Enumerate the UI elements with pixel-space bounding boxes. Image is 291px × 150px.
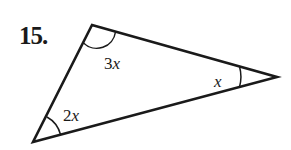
angle-arc-right (240, 67, 241, 88)
angle-label-top: 3x (104, 54, 121, 73)
angle-label-bottom-left: 2x (63, 106, 80, 125)
triangle-diagram: 3x x 2x (0, 0, 291, 150)
angle-label-right: x (213, 72, 222, 91)
angle-arc-bottom-left (47, 117, 61, 135)
